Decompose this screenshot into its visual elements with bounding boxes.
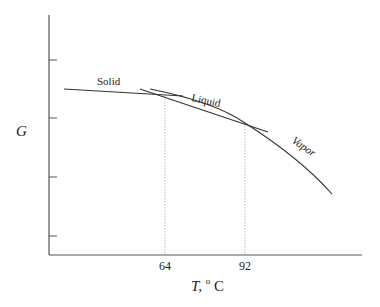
- y-axis-label: G: [16, 123, 27, 139]
- x-tick-label-64: 64: [159, 259, 171, 273]
- x-axis-variable: T,: [191, 278, 202, 294]
- x-axis-unit: C: [214, 278, 224, 294]
- phase-diagram-chart: Solid Liquid Vapor G 64 92 T, o C: [0, 0, 380, 307]
- degree-symbol: o: [206, 276, 211, 286]
- vapor-label: Vapor: [290, 134, 319, 159]
- x-tick-label-92: 92: [239, 259, 251, 273]
- x-axis-label: T, o C: [191, 271, 224, 294]
- liquid-label: Liquid: [191, 91, 223, 109]
- solid-label: Solid: [97, 75, 121, 87]
